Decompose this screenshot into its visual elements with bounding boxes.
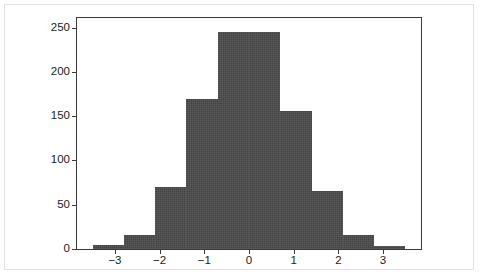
- histogram-bar: [280, 111, 311, 249]
- y-tick-mark: [72, 160, 77, 161]
- x-tick-label: 3: [380, 255, 386, 267]
- histogram-figure: 050100150200250 −3−2−10123: [0, 0, 479, 275]
- plot-area: 050100150200250 −3−2−10123: [76, 17, 422, 250]
- y-tick-label: 250: [51, 22, 70, 34]
- bars-layer: [77, 18, 421, 249]
- histogram-bar: [155, 187, 186, 249]
- x-tick-label: −1: [198, 255, 211, 267]
- histogram-bar: [218, 32, 249, 249]
- y-tick-mark: [72, 28, 77, 29]
- y-tick-mark: [72, 205, 77, 206]
- y-tick-mark: [72, 249, 77, 250]
- histogram-bar: [374, 246, 405, 249]
- histogram-bar: [312, 191, 343, 249]
- histogram-bar: [249, 32, 280, 249]
- histogram-bar: [124, 235, 155, 249]
- x-tick-label: −2: [153, 255, 166, 267]
- x-tick-label: −3: [108, 255, 121, 267]
- histogram-bar: [186, 99, 217, 249]
- x-tick-label: 1: [290, 255, 296, 267]
- x-tick-label: 0: [246, 255, 252, 267]
- y-tick-label: 200: [51, 66, 70, 78]
- y-tick-label: 50: [57, 199, 70, 211]
- histogram-bar: [343, 235, 374, 249]
- y-tick-label: 0: [64, 243, 70, 255]
- x-tick-label: 2: [335, 255, 341, 267]
- histogram-bar: [93, 245, 124, 249]
- y-tick-mark: [72, 116, 77, 117]
- y-tick-label: 100: [51, 155, 70, 167]
- y-tick-mark: [72, 72, 77, 73]
- y-tick-label: 150: [51, 110, 70, 122]
